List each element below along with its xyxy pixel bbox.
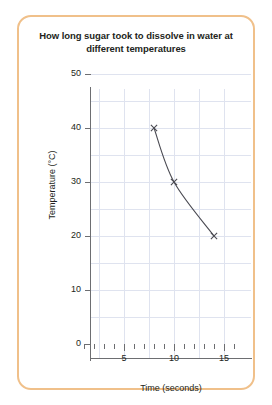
y-axis-tick-label: 10	[59, 284, 81, 294]
x-axis-tick	[224, 344, 225, 351]
x-axis-tick	[134, 344, 135, 349]
x-axis-tick	[184, 344, 185, 349]
x-axis-tick-label: 15	[212, 353, 236, 363]
gridline-horizontal	[91, 317, 251, 318]
x-axis-tick	[234, 344, 235, 349]
gridline-vertical	[149, 89, 150, 359]
gridline-horizontal	[91, 182, 251, 183]
x-axis-tick	[214, 344, 215, 349]
y-axis-tick	[85, 290, 91, 291]
x-axis-tick-label: 5	[112, 353, 136, 363]
y-axis-label: Temperature (°C)	[47, 125, 57, 245]
gridline-horizontal	[91, 263, 251, 264]
x-axis-label: Time (seconds)	[91, 383, 251, 393]
y-axis-tick-label: 40	[59, 122, 81, 132]
y-axis-tick	[85, 128, 91, 129]
gridline-horizontal	[91, 74, 251, 75]
x-axis-tick	[114, 344, 115, 349]
x-axis-tick	[154, 344, 155, 349]
y-axis-tick	[85, 236, 91, 237]
x-axis-tick	[104, 344, 105, 349]
x-axis-tick	[174, 344, 175, 351]
y-axis-tick-label: 0	[59, 338, 81, 348]
y-axis-tick-label: 20	[59, 230, 81, 240]
chart-card: How long sugar took to dissolve in water…	[17, 15, 255, 390]
x-axis-tick-label: 10	[162, 353, 186, 363]
gridline-vertical	[99, 89, 100, 359]
y-axis-tick-label: 30	[59, 176, 81, 186]
x-axis-tick	[204, 344, 205, 349]
x-axis-tick	[164, 344, 165, 349]
x-axis-tick	[144, 344, 145, 349]
chart-title: How long sugar took to dissolve in water…	[29, 29, 243, 55]
y-axis-tick-label: 50	[59, 68, 81, 78]
gridline-vertical	[124, 89, 125, 359]
plot-area	[91, 89, 251, 359]
x-axis-tick	[194, 344, 195, 349]
gridline-horizontal	[91, 155, 251, 156]
gridline-vertical	[224, 89, 225, 359]
gridline-horizontal	[91, 236, 251, 237]
gridline-horizontal	[91, 290, 251, 291]
y-axis-tick	[85, 74, 91, 75]
gridline-horizontal	[91, 128, 251, 129]
gridline-horizontal	[91, 209, 251, 210]
x-axis-tick	[94, 344, 95, 349]
y-axis-tick	[85, 182, 91, 183]
gridline-vertical	[199, 89, 200, 359]
gridline-horizontal	[91, 101, 251, 102]
y-axis-tick	[85, 344, 91, 345]
x-axis-tick	[124, 344, 125, 351]
gridline-vertical	[174, 89, 175, 359]
x-axis-tick	[84, 344, 85, 349]
